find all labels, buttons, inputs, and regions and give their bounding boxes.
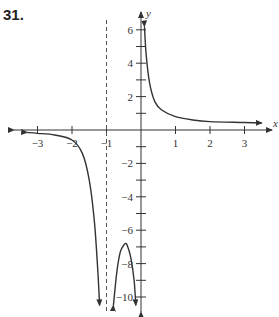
y-tick-label: −6: [121, 224, 133, 236]
axes: [14, 12, 272, 312]
y-tick-label: 4: [128, 57, 134, 69]
function-graph: xy−3−2−1123−10−8−6−4−2246: [0, 0, 279, 317]
left-branch: [27, 133, 99, 306]
y-tick-label: −10: [116, 291, 134, 303]
right-branch: [144, 26, 261, 123]
y-tick-label: −4: [121, 191, 133, 203]
x-tick-label: −3: [32, 137, 44, 149]
x-tick-label: 3: [242, 137, 248, 149]
x-tick-label: 2: [207, 137, 213, 149]
x-tick-label: 1: [173, 137, 179, 149]
y-tick-label: −2: [121, 157, 133, 169]
y-tick-label: 6: [128, 24, 134, 36]
tick-labels: xy−3−2−1123−10−8−6−4−2246: [32, 7, 278, 303]
y-tick-label: 2: [128, 91, 134, 103]
y-axis-label: y: [145, 7, 151, 19]
x-axis-label: x: [272, 117, 278, 129]
